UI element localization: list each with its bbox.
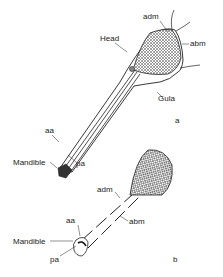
panel-label-b: b: [173, 255, 178, 264]
label-pa-a: pa: [76, 159, 85, 168]
figure-a: Head adm abm Gula a aa Mandible pa: [13, 10, 206, 178]
label-aa-a: aa: [45, 126, 54, 135]
label-abm-a: abm: [190, 39, 206, 48]
muscle-mass: [133, 29, 181, 74]
label-pa-b: pa: [50, 255, 59, 264]
label-mandible-a: Mandible: [13, 158, 46, 167]
mandible-b: [73, 237, 88, 256]
muscle-fan: [130, 150, 172, 195]
label-mandible-b: Mandible: [13, 237, 46, 246]
label-aa-b: aa: [66, 216, 75, 225]
panel-label-a: a: [175, 116, 180, 125]
mandible-muscle-diagram: Head adm abm Gula a aa Mandible pa adm a…: [0, 0, 223, 277]
label-abm-b: abm: [129, 217, 145, 226]
label-adm-b: adm: [97, 185, 113, 194]
label-adm-a: adm: [143, 12, 159, 21]
label-head: Head: [100, 34, 119, 43]
